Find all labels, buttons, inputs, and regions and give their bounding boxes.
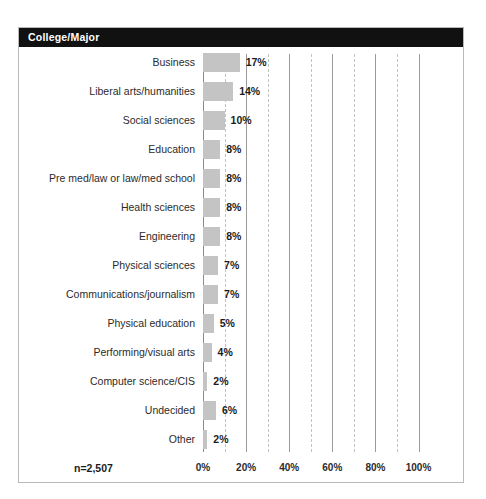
bar bbox=[203, 82, 233, 101]
bar-value-label: 7% bbox=[224, 288, 239, 300]
bar-row: Other2% bbox=[19, 426, 463, 455]
bar-row: Physical sciences7% bbox=[19, 252, 463, 281]
bar-value-label: 2% bbox=[213, 375, 228, 387]
bar-value-label: 8% bbox=[226, 230, 241, 242]
bar-value-label: 4% bbox=[218, 346, 233, 358]
bar-category-label: Pre med/law or law/med school bbox=[49, 172, 195, 184]
bar-row: Health sciences8% bbox=[19, 194, 463, 223]
bar-value-label: 2% bbox=[213, 433, 228, 445]
bar-row: Physical education5% bbox=[19, 310, 463, 339]
bar bbox=[203, 401, 216, 420]
bar-category-label: Education bbox=[148, 143, 195, 155]
bar-value-label: 7% bbox=[224, 259, 239, 271]
bar-row: Social sciences10% bbox=[19, 107, 463, 136]
bar-category-label: Social sciences bbox=[123, 114, 195, 126]
bar bbox=[203, 169, 220, 188]
panel-header: College/Major bbox=[19, 28, 463, 47]
bar bbox=[203, 285, 218, 304]
bar-value-label: 8% bbox=[226, 172, 241, 184]
bar-row: Undecided6% bbox=[19, 397, 463, 426]
bar bbox=[203, 227, 220, 246]
bar-row: Communications/journalism7% bbox=[19, 281, 463, 310]
bar-category-label: Health sciences bbox=[121, 201, 195, 213]
bar-category-label: Liberal arts/humanities bbox=[89, 85, 195, 97]
bar-category-label: Computer science/CIS bbox=[90, 375, 195, 387]
bar-category-label: Physical education bbox=[107, 317, 195, 329]
x-tick-label-100: 100% bbox=[406, 462, 432, 473]
bar-category-label: Physical sciences bbox=[112, 259, 195, 271]
plot-area: Business17%Liberal arts/humanities14%Soc… bbox=[19, 47, 463, 484]
bar bbox=[203, 111, 225, 130]
x-tick-label-0: 0% bbox=[196, 462, 210, 473]
bar-value-label: 6% bbox=[222, 404, 237, 416]
bar-row: Computer science/CIS2% bbox=[19, 368, 463, 397]
bar-row: Liberal arts/humanities14% bbox=[19, 78, 463, 107]
bar bbox=[203, 430, 207, 449]
bar-value-label: 10% bbox=[231, 114, 252, 126]
bar-value-label: 5% bbox=[220, 317, 235, 329]
chart-panel: College/Major Business17%Liberal arts/hu… bbox=[18, 27, 464, 483]
page-title: College/Major bbox=[28, 31, 99, 43]
x-tick-label-80: 80% bbox=[365, 462, 385, 473]
bar bbox=[203, 53, 240, 72]
x-tick-label-60: 60% bbox=[322, 462, 342, 473]
bar-category-label: Business bbox=[152, 56, 195, 68]
bar-value-label: 14% bbox=[239, 85, 260, 97]
bar-row: Education8% bbox=[19, 136, 463, 165]
bar-value-label: 8% bbox=[226, 201, 241, 213]
bar-category-label: Other bbox=[169, 433, 195, 445]
bar bbox=[203, 343, 212, 362]
bar bbox=[203, 372, 207, 391]
bar-row: Pre med/law or law/med school8% bbox=[19, 165, 463, 194]
x-tick-label-40: 40% bbox=[279, 462, 299, 473]
bar-value-label: 8% bbox=[226, 143, 241, 155]
sample-size-label: n=2,507 bbox=[74, 462, 113, 474]
bar-category-label: Undecided bbox=[145, 404, 195, 416]
bar-row: Performing/visual arts4% bbox=[19, 339, 463, 368]
bar bbox=[203, 198, 220, 217]
bar bbox=[203, 314, 214, 333]
bar-category-label: Communications/journalism bbox=[66, 288, 195, 300]
bar-row: Engineering8% bbox=[19, 223, 463, 252]
bar bbox=[203, 256, 218, 275]
x-tick-label-20: 20% bbox=[236, 462, 256, 473]
bar bbox=[203, 140, 220, 159]
bar-category-label: Performing/visual arts bbox=[93, 346, 195, 358]
bar-value-label: 17% bbox=[246, 56, 267, 68]
bar-row: Business17% bbox=[19, 49, 463, 78]
bar-category-label: Engineering bbox=[139, 230, 195, 242]
